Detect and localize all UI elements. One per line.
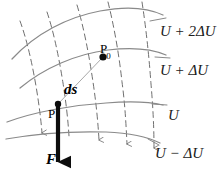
point-label-p: P — [48, 107, 55, 120]
point-label-p-text: P — [48, 106, 55, 121]
leader-u-plus-2du — [150, 18, 166, 21]
field-line-4 — [108, 2, 127, 144]
field-line-group — [20, 2, 154, 148]
point-label-p-zero-subscript: 0 — [106, 51, 111, 61]
equipotential-diagram: U + 2ΔU U + ΔU U U − ΔU P0 P ds F — [0, 0, 217, 181]
point-label-p-zero: P0 — [100, 42, 112, 59]
leader-u — [152, 104, 167, 105]
equipotential-curve-u — [7, 102, 163, 122]
force-vector-label: F — [46, 152, 56, 167]
equipotential-curve-group — [6, 8, 166, 143]
equipotential-curve-u-plus-du — [20, 49, 166, 88]
equipotential-curve-u-minus-du — [6, 132, 160, 143]
field-line-5 — [142, 2, 154, 148]
equipotential-curve-u-plus-2du — [12, 8, 163, 59]
leader-u-plus-du — [155, 57, 170, 58]
equipotential-label-u-minus-du: U − ΔU — [155, 146, 203, 161]
equipotential-label-u: U — [168, 108, 179, 123]
equipotential-label-u-plus-du: U + ΔU — [160, 63, 208, 78]
ds-vector-label: ds — [64, 82, 77, 97]
equipotential-label-u-plus-2du: U + 2ΔU — [160, 24, 216, 39]
